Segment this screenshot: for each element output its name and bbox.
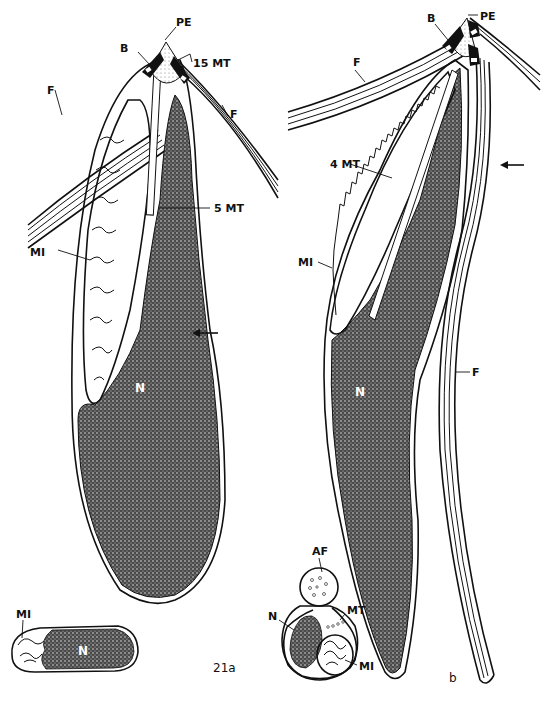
panel-21a: PE B 15 MT F F 5 MT MI N MI N 21a (12, 16, 278, 675)
figure-label-21a: 21a (213, 661, 236, 675)
label-f-flagellum-b: F (472, 366, 480, 379)
label-pe-21a: PE (176, 16, 192, 29)
label-af-section-b: AF (312, 545, 328, 558)
label-mt-section-b: MT (347, 604, 366, 617)
label-n-21a: N (135, 381, 145, 395)
label-mi-21a: MI (30, 246, 45, 259)
label-n-b: N (355, 385, 365, 399)
microtubule-rod-21a (146, 75, 160, 215)
label-mi-section-21a: MI (16, 608, 31, 621)
label-mi-b: MI (298, 256, 313, 269)
label-15mt: 15 MT (193, 57, 231, 70)
label-b-21a: B (120, 42, 128, 55)
label-5mt: 5 MT (214, 202, 244, 215)
label-mi-section-b: MI (359, 660, 374, 673)
label-f-left-21a: F (47, 84, 55, 97)
label-4mt: 4 MT (330, 158, 360, 171)
label-f-top-b: F (353, 56, 361, 69)
label-pe-b: PE (480, 10, 496, 23)
cross-section-21a: MI N (12, 608, 138, 672)
label-f-right-21a: F (230, 108, 238, 121)
label-b-b: B (427, 12, 435, 25)
label-n-section-21a: N (78, 644, 88, 658)
diagram-canvas: PE B 15 MT F F 5 MT MI N MI N 21a (0, 0, 554, 705)
flagella-left (28, 130, 166, 248)
label-n-section-b: N (268, 610, 277, 623)
basal-body-right-b (468, 44, 480, 66)
arrow-pointer-b (500, 161, 524, 169)
panel-b: PE B F 4 MT MI N F AF N MT (268, 10, 540, 685)
figure-label-b: b (449, 671, 457, 685)
basal-body-right-top-b (468, 20, 480, 38)
